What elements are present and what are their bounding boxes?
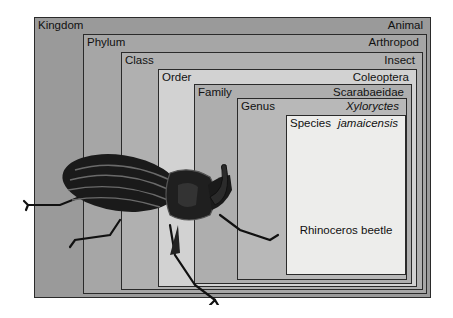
phylum-rank-label: Phylum [87, 36, 125, 49]
species-taxon-label: jamaicensis [338, 117, 398, 130]
family-rank-label: Family [198, 86, 232, 99]
order-rank-label: Order [162, 71, 191, 84]
species-rank-label: Species [290, 117, 331, 130]
kingdom-rank-label: Kingdom [38, 19, 83, 32]
phylum-taxon-label: Arthropod [368, 36, 419, 49]
genus-taxon-label: Xyloryctes [346, 100, 399, 113]
class-rank-label: Class [125, 54, 154, 67]
kingdom-taxon-label: Animal [388, 19, 423, 32]
rhinoceros-beetle-illustration [20, 135, 290, 305]
genus-rank-label: Genus [241, 100, 275, 113]
species-box: Species jamaicensis Rhinoceros beetle [286, 115, 406, 275]
class-taxon-label: Insect [384, 54, 415, 67]
order-taxon-label: Coleoptera [353, 71, 409, 84]
common-name-label: Rhinoceros beetle [287, 224, 405, 236]
